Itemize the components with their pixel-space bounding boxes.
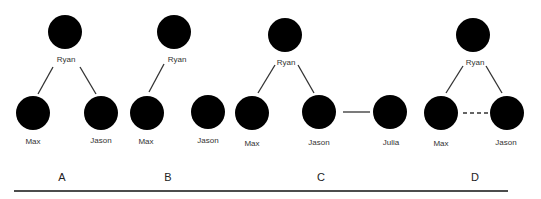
person-name-ryan: Ryan: [57, 55, 76, 64]
smiley-face-icon: [490, 96, 524, 130]
person-name-max: Max: [244, 139, 259, 148]
person-name-jason: Jason: [197, 136, 218, 145]
smiley-face-icon: [424, 96, 458, 130]
edge-ryan-max: [38, 67, 53, 94]
edge-ryan-max: [149, 64, 164, 92]
person-name-max: Max: [433, 139, 448, 148]
edge-ryan-jason: [486, 66, 502, 93]
smiley-face-icon: [130, 96, 164, 130]
smiley-face-icon: [235, 96, 269, 130]
smiley-face-icon: [157, 15, 191, 49]
panel-label-c: C: [317, 171, 325, 183]
person-name-julia: Julia: [383, 138, 400, 147]
smiley-face-icon: [191, 95, 225, 129]
person-name-ryan: Ryan: [277, 58, 296, 67]
smiley-face-icon: [268, 18, 302, 52]
smiley-face-icon: [456, 18, 490, 52]
edge-ryan-max: [258, 65, 275, 93]
person-name-ryan: Ryan: [168, 55, 187, 64]
panel-b: Ryan Max Jason B: [130, 15, 225, 183]
person-name-max: Max: [138, 137, 153, 146]
panel-label-d: D: [471, 171, 479, 183]
edge-ryan-jason: [298, 65, 314, 93]
panel-a: Ryan Max Jason A: [16, 15, 118, 183]
smiley-face-icon: [48, 15, 82, 49]
edge-ryan-jason: [80, 67, 96, 94]
smiley-face-icon: [302, 95, 336, 129]
person-name-jason: Jason: [90, 136, 111, 145]
person-name-max: Max: [25, 137, 40, 146]
social-network-diagram: Ryan Max Jason A Ryan Max Jason B Ryan M…: [0, 0, 541, 199]
panel-d: Ryan Max Jason D: [424, 18, 524, 183]
panel-label-b: B: [164, 171, 171, 183]
panel-label-a: A: [58, 171, 66, 183]
panel-c: Ryan Max Jason Julia C: [235, 18, 407, 183]
person-name-ryan: Ryan: [466, 58, 485, 67]
smiley-face-icon: [373, 95, 407, 129]
edge-ryan-max: [446, 66, 463, 93]
person-name-jason: Jason: [308, 138, 329, 147]
smiley-face-icon: [16, 96, 50, 130]
person-name-jason: Jason: [495, 138, 516, 147]
smiley-face-icon: [84, 96, 118, 130]
